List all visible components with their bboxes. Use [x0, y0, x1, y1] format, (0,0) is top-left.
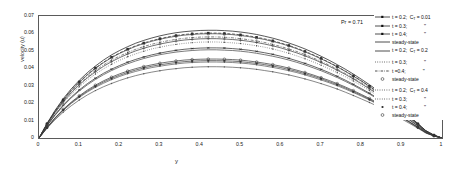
legend-row-3: steady-state [374, 38, 462, 46]
legend-label-7: steady-state [392, 76, 419, 82]
legend-label-8: t = 0.2; CT = 0.4 [392, 87, 428, 94]
y-tick-6: 0.01 [8, 117, 34, 123]
x-tick-7: 0.7 [310, 141, 330, 147]
series-marker [191, 48, 194, 50]
legend-row-6: t =0.4;" [374, 66, 462, 74]
series-marker [127, 56, 128, 57]
y-tick-4: 0.03 [8, 82, 34, 88]
legend-symbol-circle-icon [374, 75, 391, 83]
x-axis-label: y [175, 158, 178, 164]
series-marker [271, 53, 274, 55]
legend-symbol-dashdot-icon [374, 67, 391, 75]
series-marker [272, 44, 273, 45]
series-marker [304, 62, 307, 64]
series-marker [240, 67, 241, 68]
y-tick-1: 0.06 [8, 29, 34, 35]
legend-symbol-dot-icon [374, 95, 391, 103]
legend-symbol-square-line-icon [374, 30, 391, 38]
series-marker [304, 58, 305, 59]
series-marker [272, 71, 273, 72]
legend-symbol-dot-icon [374, 58, 391, 66]
series-marker [175, 39, 176, 40]
y-tick-2: 0.05 [8, 47, 34, 53]
series-marker [255, 50, 258, 52]
legend-row-1: t = 0.3;" [374, 21, 462, 29]
x-tick-1: 0.1 [68, 141, 88, 147]
series-marker [208, 41, 209, 42]
chart-legend: t = 0.2; CT = 0.01t = 0.3;"t = 0.4;"stea… [374, 13, 462, 120]
series-marker [208, 66, 209, 67]
y-tick-3: 0.04 [8, 64, 34, 70]
series-marker [79, 86, 80, 87]
y-tick-5: 0.02 [8, 99, 34, 105]
series-marker [111, 59, 112, 60]
series-marker [304, 54, 305, 55]
series-marker [320, 61, 321, 62]
y-tick-0: 0.07 [8, 12, 34, 18]
legend-row-9: t = 0.3;" [374, 95, 462, 103]
legend-symbol-dot-icon [374, 86, 391, 94]
series-marker [127, 77, 128, 78]
series-marker [175, 68, 176, 69]
chart-root: velocity (u) y 0.070.060.050.040.030.020… [0, 0, 463, 171]
legend-label-11: steady-state [392, 112, 419, 118]
series-marker [224, 66, 225, 67]
series-marker [288, 48, 289, 49]
legend-symbol-solid-line-icon [374, 47, 391, 55]
series-marker [353, 80, 354, 81]
series-marker [143, 46, 144, 47]
series-marker [207, 47, 210, 49]
series-marker [142, 56, 145, 58]
legend-label-1: t = 0.3;" [392, 23, 426, 29]
series-marker [159, 46, 160, 47]
legend-symbol-asterisk-line-icon [374, 13, 391, 21]
legend-row-11: steady-state [374, 111, 462, 119]
series-marker [127, 52, 128, 53]
series-marker [337, 68, 338, 69]
series-marker [62, 112, 63, 113]
legend-row-8: t = 0.2; CT = 0.4 [374, 86, 462, 94]
legend-row-2: t = 0.4;" [374, 30, 462, 38]
series-marker [240, 38, 241, 39]
x-tick-4: 0.4 [189, 141, 209, 147]
x-tick-9: 0.9 [391, 141, 411, 147]
series-marker [95, 70, 96, 71]
series-marker [288, 53, 289, 54]
x-tick-10: 1 [431, 141, 451, 147]
legend-label-9: t = 0.3;" [392, 96, 426, 102]
series-marker [79, 99, 80, 100]
x-tick-0: 0 [28, 141, 48, 147]
legend-label-2: t = 0.4;" [392, 31, 426, 37]
series-marker [208, 36, 209, 37]
series-marker [143, 73, 144, 74]
x-tick-6: 0.6 [270, 141, 290, 147]
series-marker [175, 44, 176, 45]
x-tick-5: 0.5 [230, 141, 250, 147]
legend-row-10: t = 0.4;" [374, 103, 462, 111]
x-tick-3: 0.3 [149, 141, 169, 147]
x-tick-8: 0.8 [350, 141, 370, 147]
legend-row-5: t = 0.3;" [374, 58, 462, 66]
legend-symbol-solid-line-icon [374, 38, 391, 46]
series-marker [126, 61, 129, 63]
series-marker [111, 83, 112, 84]
legend-symbol-square-small-icon [374, 103, 391, 111]
series-marker [240, 43, 241, 44]
series-marker [224, 42, 225, 43]
series-marker [256, 69, 257, 70]
series-marker [320, 64, 321, 65]
series-marker [175, 49, 178, 51]
series-marker [272, 48, 273, 49]
series-marker [369, 102, 370, 103]
series-marker [337, 88, 338, 89]
series-marker [337, 72, 338, 73]
legend-label-4: t = 0.2; CT = 0.2 [392, 47, 428, 54]
series-marker [288, 74, 289, 75]
series-marker [191, 37, 192, 38]
series-marker [191, 42, 192, 43]
legend-row-4: t = 0.2; CT = 0.2 [374, 47, 462, 55]
legend-row-0: t = 0.2; CT = 0.01 [374, 13, 462, 21]
series-marker [159, 70, 160, 71]
series-marker [256, 45, 257, 46]
series-marker [224, 37, 225, 38]
